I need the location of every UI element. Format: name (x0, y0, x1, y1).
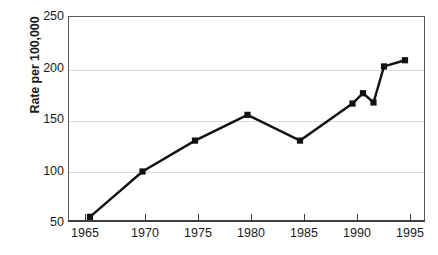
data-point-marker (370, 99, 376, 105)
y-axis-title: Rate per 100,000 (28, 0, 42, 150)
series-path (90, 60, 405, 217)
data-point-marker (192, 138, 198, 144)
x-tick-label: 1980 (221, 227, 281, 240)
data-point-marker (402, 57, 408, 63)
plot-area (68, 16, 425, 222)
x-tick-label: 1970 (115, 227, 175, 240)
y-axis-ticks: 250 200 150 100 50 (20, 0, 64, 255)
data-series-line (69, 17, 426, 223)
data-point-marker (139, 168, 145, 174)
x-tick-label: 1975 (168, 227, 228, 240)
y-tick-label: 100 (24, 165, 64, 178)
x-tick-label: 1995 (380, 227, 438, 240)
x-tick-label: 1985 (274, 227, 334, 240)
data-point-marker (87, 214, 93, 220)
x-tick-label: 1990 (327, 227, 387, 240)
x-tick-label: 1965 (55, 227, 115, 240)
line-chart: 250 200 150 100 50 Rate per 100,000 1965… (0, 0, 438, 255)
data-point-marker (297, 138, 303, 144)
data-point-marker (360, 90, 366, 96)
data-point-marker (381, 63, 387, 69)
data-point-marker (244, 112, 250, 118)
data-point-marker (349, 100, 355, 106)
